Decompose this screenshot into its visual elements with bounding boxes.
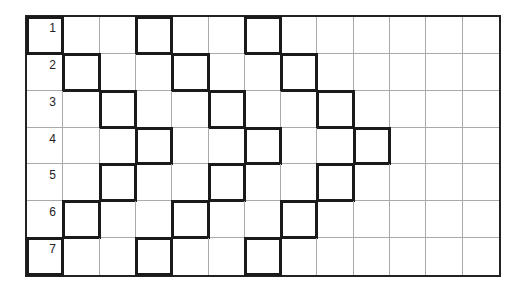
grid-cell — [63, 128, 99, 165]
grid-cell — [136, 164, 172, 201]
row-number-label: 7 — [49, 242, 56, 256]
grid-cell — [100, 128, 136, 165]
grid-cell — [463, 54, 499, 91]
grid-cell — [136, 91, 172, 128]
grid-cell — [463, 17, 499, 54]
grid-cell — [100, 54, 136, 91]
grid-cell — [27, 54, 63, 91]
grid-cell — [426, 91, 462, 128]
grid-cell — [63, 17, 99, 54]
grid-cell — [354, 201, 390, 238]
grid-cell — [463, 201, 499, 238]
highlighted-cell — [135, 127, 173, 166]
grid-cell — [426, 164, 462, 201]
grid-cell — [136, 54, 172, 91]
grid-cell — [27, 201, 63, 238]
grid-cell — [172, 238, 208, 275]
grid-cell — [245, 201, 281, 238]
grid-cell — [390, 91, 426, 128]
grid-cell — [100, 201, 136, 238]
highlighted-cell — [171, 200, 209, 239]
row-number-label: 3 — [49, 95, 56, 109]
grid-cell — [317, 54, 353, 91]
highlighted-cell — [208, 163, 246, 202]
grid-cell — [209, 238, 245, 275]
highlighted-cell — [99, 163, 137, 202]
grid-cell — [354, 164, 390, 201]
row-number-label: 1 — [49, 21, 56, 35]
grid-cell — [27, 91, 63, 128]
grid-cell — [172, 91, 208, 128]
grid-cell — [317, 238, 353, 275]
grid-cell — [172, 164, 208, 201]
grid-cell — [354, 17, 390, 54]
grid-cell — [463, 128, 499, 165]
grid-cell — [245, 54, 281, 91]
highlighted-cell — [135, 237, 173, 276]
highlighted-cell — [353, 127, 391, 166]
grid-cell — [209, 54, 245, 91]
grid-cell — [426, 17, 462, 54]
grid-cell — [317, 17, 353, 54]
highlighted-cell — [316, 90, 354, 129]
grid-cell — [426, 54, 462, 91]
highlighted-cell — [244, 127, 282, 166]
grid-cell — [136, 201, 172, 238]
grid-cell — [27, 128, 63, 165]
pattern-grid: 1234567 — [25, 15, 501, 277]
grid-cell — [426, 238, 462, 275]
grid-cell — [63, 91, 99, 128]
grid-cell — [463, 238, 499, 275]
grid-cell — [354, 54, 390, 91]
highlighted-cell — [62, 53, 100, 92]
grid-cell — [354, 91, 390, 128]
grid-cell — [100, 238, 136, 275]
grid-cell — [281, 164, 317, 201]
highlighted-cell — [244, 237, 282, 276]
highlighted-cell — [280, 200, 318, 239]
grid-cell — [426, 201, 462, 238]
grid-cell — [281, 17, 317, 54]
grid-cell — [390, 17, 426, 54]
highlighted-cell — [62, 200, 100, 239]
highlighted-cell — [135, 16, 173, 55]
grid-cell — [317, 201, 353, 238]
grid-cell — [209, 17, 245, 54]
grid-cell — [63, 164, 99, 201]
row-number-label: 5 — [49, 168, 56, 182]
row-number-label: 4 — [49, 132, 56, 146]
grid-cell — [390, 164, 426, 201]
grid-cell — [390, 238, 426, 275]
highlighted-cell — [26, 237, 64, 276]
grid-cell — [245, 164, 281, 201]
grid-cell — [281, 238, 317, 275]
highlighted-cell — [316, 163, 354, 202]
grid-cell — [172, 17, 208, 54]
grid-cell — [27, 164, 63, 201]
highlighted-cell — [99, 90, 137, 129]
row-number-label: 2 — [49, 58, 56, 72]
highlighted-cell — [244, 16, 282, 55]
grid-cell — [209, 128, 245, 165]
grid-cell — [245, 91, 281, 128]
grid-cell — [281, 128, 317, 165]
grid-cell — [463, 91, 499, 128]
highlighted-cell — [280, 53, 318, 92]
grid-cell — [426, 128, 462, 165]
grid-cell — [209, 201, 245, 238]
grid-cell — [390, 128, 426, 165]
grid-cell — [100, 17, 136, 54]
row-number-label: 6 — [49, 205, 56, 219]
grid-cell — [172, 128, 208, 165]
grid-cell — [317, 128, 353, 165]
grid-cell — [63, 238, 99, 275]
highlighted-cell — [171, 53, 209, 92]
grid-cell — [281, 91, 317, 128]
grid-cell — [463, 164, 499, 201]
grid-cell — [390, 201, 426, 238]
highlighted-cell — [208, 90, 246, 129]
grid-cell — [354, 238, 390, 275]
grid-cell — [390, 54, 426, 91]
highlighted-cell — [26, 16, 64, 55]
